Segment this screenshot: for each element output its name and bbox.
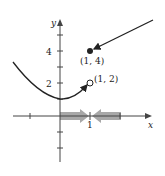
piecewise-function-graph: x 1 y 4 2 (1, 2) (1, 4)	[0, 0, 165, 176]
line-right-branch	[94, 20, 153, 49]
open-point-label: (1, 2)	[94, 74, 118, 84]
filled-point-icon	[87, 48, 93, 54]
y-tick-label-2: 2	[46, 79, 52, 89]
x-axis-label: x	[148, 120, 153, 130]
y-axis	[57, 19, 63, 162]
open-point-icon	[87, 80, 93, 86]
y-axis-label: y	[50, 18, 57, 28]
y-tick-label-4: 4	[46, 47, 52, 57]
x-tick-label-1: 1	[87, 120, 93, 130]
filled-point-label: (1, 4)	[80, 56, 104, 66]
